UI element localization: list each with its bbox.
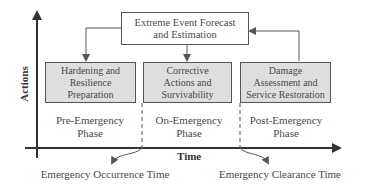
y-axis-label: Actions [18, 62, 30, 106]
restoration-box: Damage Assessment and Service Restoratio… [240, 62, 331, 103]
hardening-box: Hardening and Resilience Preparation [45, 62, 136, 103]
restoration-line2: Assessment and [246, 77, 325, 89]
emergency-clearance-time: Emergency Clearance Time [200, 168, 360, 181]
x-axis-label: Time [177, 150, 201, 162]
restoration-line1: Damage [246, 65, 325, 77]
forecast-box: Extreme Event Forecast and Estimation [121, 12, 249, 45]
pointer-clearance [240, 148, 268, 163]
restoration-line3: Service Restoration [246, 89, 325, 101]
corrective-line1: Corrective [161, 65, 213, 77]
corrective-line3: Survivability [161, 89, 213, 101]
arrow-restoration-to-forecast [250, 31, 299, 61]
arrow-forecast-to-hardening [86, 28, 121, 60]
corrective-box: Corrective Actions and Survivability [143, 62, 232, 103]
post-emergency-phase: Post-Emergency Phase [234, 114, 338, 140]
hardening-line2: Resilience [61, 77, 120, 89]
corrective-line2: Actions and [161, 77, 213, 89]
forecast-box-line2: and Estimation [135, 29, 236, 41]
emergency-occurrence-time: Emergency Occurrence Time [20, 168, 190, 181]
forecast-box-line1: Extreme Event Forecast [135, 17, 236, 29]
pointer-occurrence [112, 148, 142, 163]
hardening-line1: Hardening and [61, 65, 120, 77]
on-emergency-phase: On-Emergency Phase [139, 114, 239, 140]
hardening-line3: Preparation [61, 89, 120, 101]
pre-emergency-phase: Pre-Emergency Phase [40, 114, 140, 140]
